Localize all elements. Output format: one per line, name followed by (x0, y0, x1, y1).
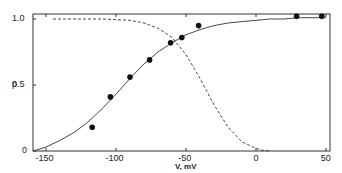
data-point (127, 74, 133, 80)
y-tick-label: 0 (22, 145, 27, 155)
x-tick-label: 50 (321, 153, 331, 163)
data-point (147, 57, 153, 63)
y-axis-title: p (12, 79, 17, 89)
data-point (179, 35, 185, 41)
x-axis-title: V, mV (175, 162, 197, 171)
data-point (294, 14, 300, 20)
x-tick-label: -150 (36, 153, 54, 163)
data-point (319, 14, 325, 20)
dashed-curve (53, 19, 270, 151)
plot-border (33, 14, 330, 151)
plot-frame (33, 14, 330, 151)
chart-canvas (0, 0, 342, 173)
data-point (168, 40, 174, 46)
data-point (196, 23, 202, 29)
x-tick-label: 0 (253, 153, 258, 163)
data-points (89, 14, 324, 130)
y-tick-label: 1.0 (12, 13, 25, 23)
data-point (108, 94, 114, 100)
x-tick-label: -100 (106, 153, 124, 163)
data-point (89, 124, 95, 130)
